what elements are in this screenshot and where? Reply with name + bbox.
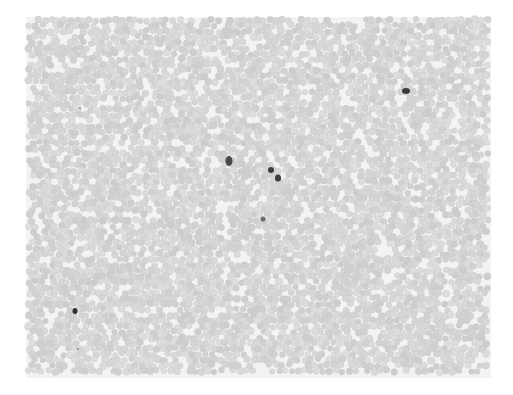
blood-smear-field xyxy=(0,0,513,395)
microscopy-image xyxy=(0,0,513,395)
leukocyte-5 xyxy=(73,308,78,314)
speck-2 xyxy=(77,348,79,350)
leukocyte-4 xyxy=(402,88,410,94)
leukocyte-1 xyxy=(226,156,233,166)
lymphocyte-small xyxy=(261,217,266,222)
leukocyte-2 xyxy=(268,167,274,173)
leukocyte-3 xyxy=(275,175,281,182)
speck-1 xyxy=(79,107,81,109)
